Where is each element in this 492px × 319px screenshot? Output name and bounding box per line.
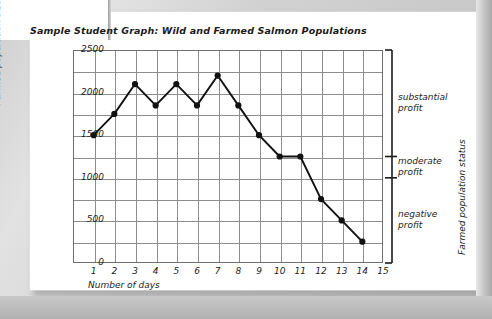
data-point-marker bbox=[173, 81, 179, 87]
x-axis-tick-label: 10 bbox=[270, 266, 290, 276]
data-point-marker bbox=[132, 81, 138, 87]
x-axis-title: Number of days bbox=[88, 280, 160, 290]
x-axis-tick-label: 14 bbox=[352, 266, 372, 276]
y-axis-title: Farmed population size bbox=[0, 0, 2, 105]
data-point-marker bbox=[359, 239, 365, 245]
data-point-marker bbox=[339, 217, 345, 223]
data-point-marker bbox=[277, 153, 283, 159]
page-bottom-edge bbox=[0, 296, 492, 319]
status-bracket bbox=[383, 48, 399, 266]
bracket-label-line1: moderate bbox=[398, 156, 442, 167]
chart-title: Sample Student Graph: Wild and Farmed Sa… bbox=[30, 25, 390, 36]
x-axis-tick-label: 5 bbox=[166, 266, 186, 276]
bracket-label-line1: substantial bbox=[398, 92, 448, 103]
data-series-layer bbox=[73, 50, 384, 264]
bracket-label-line2: profit bbox=[398, 220, 437, 231]
data-point-marker bbox=[194, 102, 200, 108]
data-point-marker bbox=[318, 196, 324, 202]
bracket-label: substantialprofit bbox=[398, 92, 448, 114]
data-point-marker bbox=[235, 102, 241, 108]
x-axis-tick-label: 4 bbox=[146, 266, 166, 276]
data-point-marker bbox=[91, 132, 97, 138]
x-axis-tick-label: 15 bbox=[373, 266, 393, 276]
series-line bbox=[94, 76, 363, 242]
x-axis-tick-label: 12 bbox=[311, 266, 331, 276]
x-axis-tick-label: 11 bbox=[290, 266, 310, 276]
bracket-label: negativeprofit bbox=[398, 209, 437, 231]
data-point-marker bbox=[297, 153, 303, 159]
bracket-label-line2: profit bbox=[398, 103, 448, 114]
x-axis-tick-label: 13 bbox=[332, 266, 352, 276]
data-point-marker bbox=[111, 111, 117, 117]
y-axis-right-title: Farmed population status bbox=[457, 139, 467, 255]
x-axis-tick-label: 1 bbox=[84, 266, 104, 276]
x-axis-tick-label: 7 bbox=[208, 266, 228, 276]
data-point-marker bbox=[153, 102, 159, 108]
bracket-label: moderateprofit bbox=[398, 156, 442, 178]
page-right-edge bbox=[476, 0, 492, 319]
data-point-marker bbox=[256, 132, 262, 138]
x-axis-tick-label: 8 bbox=[228, 266, 248, 276]
bracket-label-line1: negative bbox=[398, 209, 437, 220]
x-axis-tick-label: 3 bbox=[125, 266, 145, 276]
x-axis-tick-label: 6 bbox=[187, 266, 207, 276]
x-axis-tick-label: 2 bbox=[104, 266, 124, 276]
x-axis-tick-label: 9 bbox=[249, 266, 269, 276]
data-point-marker bbox=[215, 72, 221, 78]
bracket-label-line2: profit bbox=[398, 167, 442, 178]
